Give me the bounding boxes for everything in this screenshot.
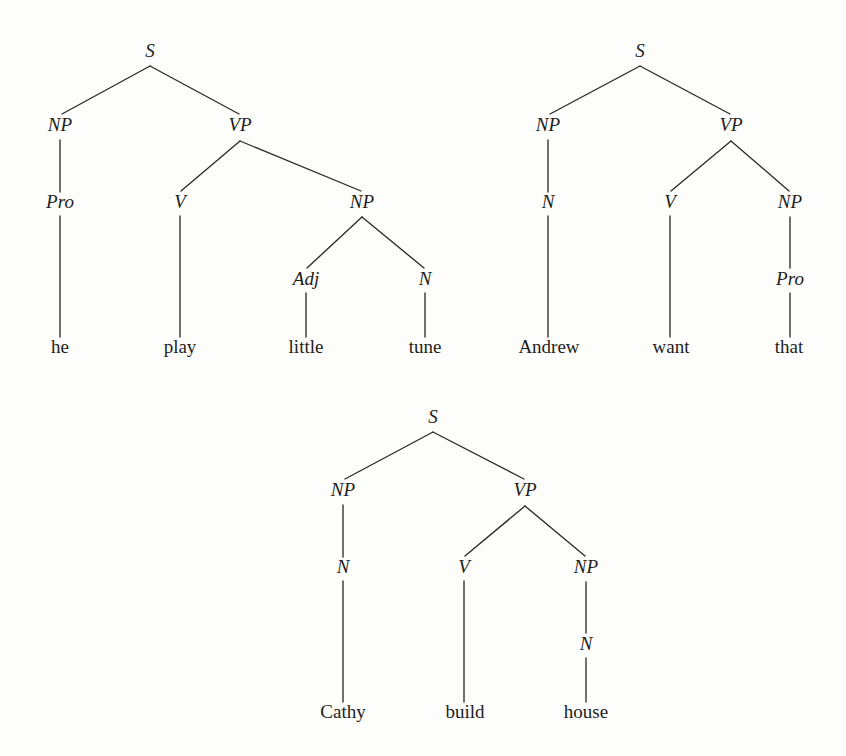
terminal-word: tune	[409, 336, 442, 357]
category-node: V	[458, 556, 472, 577]
tree-branch	[345, 432, 433, 479]
tree-branch	[433, 432, 524, 479]
category-node: S	[145, 40, 155, 61]
tree-branch	[362, 217, 424, 268]
category-node: NP	[777, 191, 803, 212]
terminal-word: Cathy	[320, 701, 366, 722]
category-node: S	[428, 406, 438, 427]
category-node: NP	[330, 479, 356, 500]
tree-branch	[731, 141, 789, 191]
category-node: N	[579, 633, 594, 654]
syntax-tree: SNPVPProVNPAdjNheplaylittletune	[45, 40, 441, 357]
category-node: Pro	[775, 268, 804, 289]
syntax-tree: SNPVPNVNPProAndrewwantthat	[518, 40, 804, 357]
category-node: Pro	[45, 191, 74, 212]
category-node: VP	[719, 114, 743, 135]
terminal-word: little	[289, 336, 324, 357]
syntax-tree-figure: SNPVPProVNPAdjNheplaylittletuneSNPVPNVNP…	[0, 0, 846, 756]
tree-branch	[240, 141, 361, 191]
category-node: VP	[228, 114, 252, 135]
category-node: VP	[513, 479, 537, 500]
category-node: N	[541, 191, 556, 212]
category-node: NP	[47, 114, 73, 135]
terminal-word: Andrew	[518, 336, 579, 357]
tree-branch	[181, 141, 240, 191]
tree-branch	[62, 66, 150, 114]
category-node: Adj	[291, 268, 319, 289]
terminal-word: build	[445, 701, 485, 722]
tree-branch	[465, 506, 525, 556]
tree-branch	[307, 217, 362, 268]
category-node: NP	[573, 556, 599, 577]
tree-branch	[525, 506, 585, 556]
tree-branch	[671, 141, 731, 191]
terminal-word: want	[653, 336, 691, 357]
category-node: NP	[535, 114, 561, 135]
terminal-word: play	[164, 336, 197, 357]
syntax-tree: SNPVPNVNPNCathybuildhouse	[320, 406, 608, 722]
category-node: NP	[349, 191, 375, 212]
terminal-word: that	[775, 336, 804, 357]
category-node: N	[336, 556, 351, 577]
terminal-word: house	[564, 701, 608, 722]
tree-branch	[550, 66, 640, 114]
category-node: N	[418, 268, 433, 289]
tree-branch	[150, 66, 239, 114]
terminal-word: he	[51, 336, 69, 357]
category-node: V	[174, 191, 188, 212]
tree-branch	[640, 66, 730, 114]
tree-canvas: SNPVPProVNPAdjNheplaylittletuneSNPVPNVNP…	[0, 0, 846, 756]
category-node: V	[664, 191, 678, 212]
category-node: S	[635, 40, 645, 61]
